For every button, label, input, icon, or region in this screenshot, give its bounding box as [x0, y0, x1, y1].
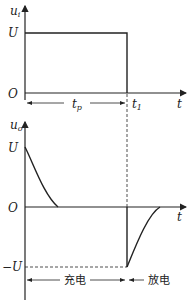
- input-waveform-plot: ui U O t tp t1: [8, 4, 186, 112]
- discharge-arrowhead: [129, 278, 134, 282]
- origin-label: O: [8, 87, 18, 101]
- t1-label: t1: [132, 97, 142, 112]
- charge-spike: [25, 147, 58, 207]
- neg-u-label: −U: [2, 260, 23, 274]
- rc-differentiator-waveforms: ui U O t tp t1 uo U O −U t 充电 放电: [0, 0, 190, 304]
- charge-label: 充电: [64, 273, 86, 287]
- origin-label-bottom: O: [8, 201, 18, 215]
- discharge-label: 放电: [148, 273, 170, 287]
- pos-u-label: U: [8, 141, 19, 155]
- ui-axis-label: ui: [10, 4, 21, 19]
- discharge-spike: [127, 207, 160, 267]
- t-axis-label-bottom: t: [177, 210, 182, 224]
- uo-axis-label: uo: [10, 118, 23, 133]
- t-axis-label: t: [177, 97, 182, 111]
- u-level-label: U: [8, 26, 19, 40]
- output-waveform-plot: uo U O −U t 充电 放电: [2, 118, 186, 300]
- input-pulse: [25, 33, 127, 93]
